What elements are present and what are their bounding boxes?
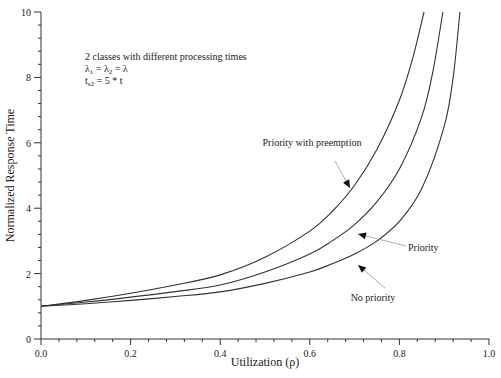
arrow-preemption-head — [343, 179, 350, 188]
y-tick-label: 10 — [21, 7, 31, 18]
x-axis-title: Utilization (ρ) — [231, 355, 299, 369]
x-tick-label: 0.6 — [304, 348, 317, 359]
y-tick-label: 2 — [26, 269, 31, 280]
label-priority: Priority — [408, 242, 439, 253]
label-priority-with-preemption: Priority with preemption — [263, 137, 362, 148]
x-tick-label: 0.2 — [124, 348, 137, 359]
annotation-line-1: 2 classes with different processing time… — [85, 51, 247, 62]
axes: 0.00.20.40.60.81.00246810Utilization (ρ)… — [3, 7, 495, 369]
arrow-no-priority-head — [358, 265, 366, 273]
y-tick-label: 8 — [26, 72, 31, 83]
label-no-priority: No priority — [351, 292, 396, 303]
y-tick-label: 6 — [26, 138, 31, 149]
x-tick-label: 0.8 — [393, 348, 406, 359]
chart-canvas: 0.00.20.40.60.81.00246810Utilization (ρ)… — [0, 0, 501, 378]
x-tick-label: 0.0 — [35, 348, 48, 359]
x-tick-label: 1.0 — [483, 348, 496, 359]
y-tick-label: 0 — [26, 334, 31, 345]
arrow-priority-head — [358, 233, 367, 240]
y-axis-title: Normalized Response Time — [3, 109, 17, 242]
x-tick-label: 0.4 — [214, 348, 227, 359]
annotations: 2 classes with different processing time… — [85, 51, 439, 303]
annotation-line-3: ts2 = 5 * t — [85, 75, 123, 88]
y-tick-label: 4 — [26, 203, 31, 214]
